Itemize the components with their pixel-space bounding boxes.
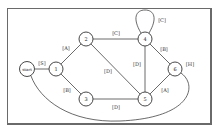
- edge-label-H: [H]: [186, 61, 194, 67]
- svg-text:5: 5: [143, 96, 146, 102]
- edge-4-loop: [136, 10, 154, 33]
- node-2: 2: [79, 32, 93, 46]
- edge-2-5: [91, 44, 140, 94]
- svg-text:1: 1: [54, 66, 57, 72]
- edge-label-B-1-3: [B]: [63, 87, 71, 93]
- node-5: 5: [138, 92, 152, 106]
- edge-label-C-2-4: [C]: [112, 30, 120, 36]
- edge-label-S: [S]: [38, 60, 45, 66]
- svg-text:4: 4: [143, 36, 146, 42]
- edge-6-start: [31, 73, 189, 121]
- edge-label-C-loop: [C]: [158, 17, 166, 23]
- edge-label-D-3-5: [D]: [112, 104, 120, 110]
- edge-label-A-1-2: [A]: [62, 45, 70, 51]
- node-1: 1: [49, 62, 63, 76]
- edge-label-A-5-6: [A]: [161, 87, 169, 93]
- svg-text:6: 6: [173, 66, 176, 72]
- svg-text:2: 2: [84, 36, 87, 42]
- node-6: 6: [168, 62, 182, 76]
- node-4: 4: [138, 32, 152, 46]
- edge-label-B-4-6: [B]: [160, 46, 168, 52]
- node-start: start: [20, 62, 35, 77]
- state-graph: [S] [A] [B] [C] [D] [D] [C] [D] [B] [A] …: [0, 0, 221, 136]
- edge-label-D-4-5: [D]: [133, 61, 141, 67]
- node-3: 3: [79, 92, 93, 106]
- edge-label-D-2-5: [D]: [104, 68, 112, 74]
- svg-text:3: 3: [84, 96, 87, 102]
- svg-text:start: start: [22, 67, 32, 72]
